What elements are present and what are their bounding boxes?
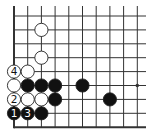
white-stone-move-4: 4 [7, 65, 20, 78]
black-stone [76, 79, 89, 92]
white-stone [35, 93, 48, 106]
black-stone [21, 79, 34, 92]
move-number: 2 [11, 93, 18, 105]
move-number: 4 [11, 65, 18, 77]
white-stone [35, 51, 48, 64]
white-stone [21, 93, 34, 106]
black-stone [35, 79, 48, 92]
white-stone-move-2: 2 [7, 93, 20, 106]
black-stone [49, 79, 62, 92]
move-number: 1 [11, 107, 18, 119]
black-stone [103, 93, 116, 106]
black-stone-move-1: 1 [7, 107, 20, 120]
white-stone [7, 79, 20, 92]
star-point [136, 84, 140, 88]
white-stone [35, 23, 48, 36]
black-stone [35, 107, 48, 120]
move-number: 3 [24, 107, 31, 119]
black-stone-move-3: 3 [21, 107, 34, 120]
black-stone [49, 93, 62, 106]
star-points [136, 84, 140, 88]
go-board-diagram: 4213 [0, 0, 151, 139]
white-stone [21, 65, 34, 78]
